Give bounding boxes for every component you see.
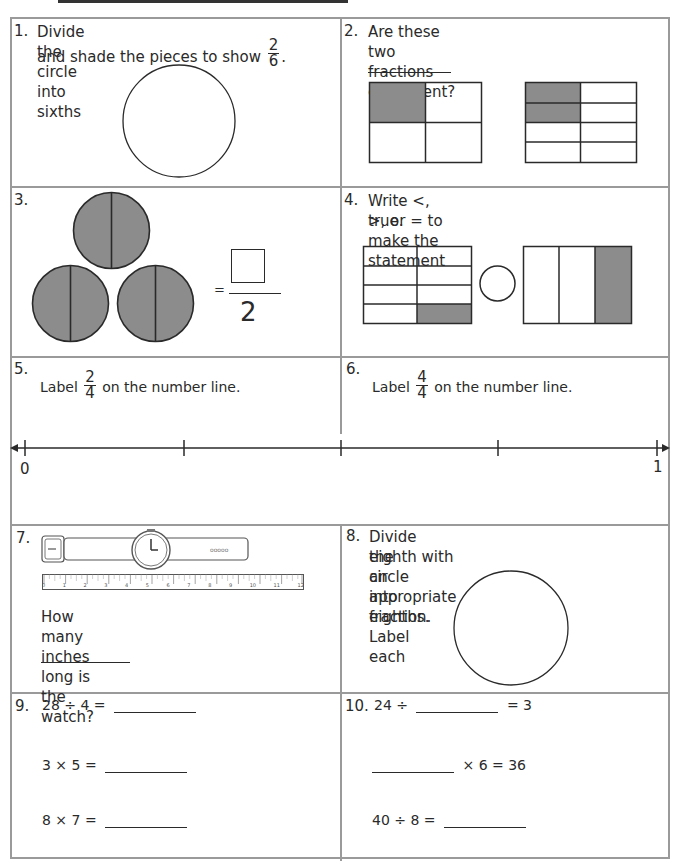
answer-blank[interactable] <box>41 662 130 663</box>
fraction-model-two-by-two <box>369 82 482 164</box>
shaded-circle-halves-top <box>72 191 152 271</box>
label-word: Label <box>372 379 410 395</box>
numerator-answer-box[interactable] <box>231 249 265 283</box>
question-5-text: Label 2 4 on the number line. <box>40 372 240 403</box>
denominator: 6 <box>269 54 279 69</box>
ruler-label: 4 <box>125 582 128 590</box>
question-8-line-2: eighth with an appropriate fraction. <box>369 547 456 627</box>
fraction-two-fourths: 2 4 <box>84 370 96 401</box>
ruler-label: 2 <box>84 582 87 590</box>
circle-to-divide-eighths[interactable] <box>453 571 571 687</box>
ruler-label: 8 <box>208 582 211 590</box>
fraction-four-fourths: 4 4 <box>416 370 428 401</box>
question-number: 5. <box>14 360 28 378</box>
top-edge-bar <box>58 0 348 3</box>
problem-text: 28 ÷ 4 = <box>42 697 106 713</box>
ruler-label: 7 <box>187 582 190 590</box>
question-number: 10. <box>345 697 369 715</box>
answer-blank[interactable] <box>444 813 526 828</box>
label-word: Label <box>40 379 78 395</box>
fraction-model-thirds <box>523 246 633 325</box>
problem-row: 8 × 7 = <box>42 812 187 828</box>
question-number: 6. <box>346 360 360 378</box>
circle-to-divide-sixths[interactable] <box>122 64 238 180</box>
problem-text: × 6 = 36 <box>462 757 526 773</box>
equals-sign: = <box>214 282 225 297</box>
question-number: 7. <box>16 529 30 547</box>
denominator: 4 <box>417 386 427 401</box>
number-line[interactable] <box>10 438 670 458</box>
fraction-model-four-by-two <box>525 82 638 164</box>
denominator: 4 <box>85 386 95 401</box>
right-arrow-icon <box>662 444 670 452</box>
problem-text: 3 × 5 = <box>42 757 97 773</box>
ruler-label: 10 <box>250 582 256 590</box>
number-line-end-label: 1 <box>653 458 663 476</box>
problem-text: = 3 <box>507 697 532 713</box>
fraction-bar <box>229 293 281 294</box>
problem-row: 40 ÷ 8 = <box>372 812 526 828</box>
question-number: 3. <box>14 191 28 209</box>
problem-text: 24 ÷ <box>374 697 408 713</box>
ruler-label: 0 <box>42 582 45 590</box>
shaded-circle-halves-right <box>116 264 196 344</box>
problem-row: 24 ÷ = 3 <box>374 697 532 713</box>
ruler-label: 6 <box>167 582 170 590</box>
question-number: 8. <box>346 527 360 545</box>
answer-blank[interactable] <box>372 758 454 773</box>
question-number: 1. <box>14 22 28 40</box>
col-divider-top <box>340 19 342 356</box>
period: . <box>281 48 286 66</box>
ruler-label: 11 <box>274 582 280 590</box>
answer-blank[interactable] <box>416 698 498 713</box>
question-4-line-2: true. <box>368 211 404 231</box>
shaded-circle-halves-left <box>31 264 111 344</box>
number-line-start-label: 0 <box>20 460 30 478</box>
ruler-label: 3 <box>104 582 107 590</box>
comparison-answer-circle[interactable] <box>479 265 517 303</box>
fraction-model-eighths <box>363 246 473 325</box>
problem-text: 40 ÷ 8 = <box>372 812 436 828</box>
ruler-label: 9 <box>229 582 232 590</box>
instruction: on the number line. <box>102 379 240 395</box>
ruler-labels: 0 1 2 3 4 5 6 7 8 9 10 11 12 <box>42 582 304 590</box>
problem-row: 3 × 5 = <box>42 757 187 773</box>
left-arrow-icon <box>10 444 18 452</box>
question-number: 2. <box>344 22 358 40</box>
denominator: 2 <box>240 297 257 327</box>
svg-text:ooooo: ooooo <box>210 546 229 553</box>
instruction: on the number line. <box>434 379 572 395</box>
answer-blank[interactable] <box>114 698 196 713</box>
question-number: 9. <box>15 697 29 715</box>
ruler-label: 12 <box>298 582 304 590</box>
ruler-label: 5 <box>146 582 149 590</box>
answer-blank[interactable] <box>105 813 187 828</box>
question-6-text: Label 4 4 on the number line. <box>372 372 572 403</box>
col-divider-bottom <box>340 524 342 861</box>
problem-row: × 6 = 36 <box>372 757 526 773</box>
ruler-label: 1 <box>63 582 66 590</box>
col-divider-numberline <box>340 356 342 434</box>
answer-blank[interactable] <box>105 758 187 773</box>
problem-row: 28 ÷ 4 = <box>42 697 196 713</box>
fraction-two-sixths: 2 6 <box>268 38 280 69</box>
answer-blank[interactable] <box>368 72 451 73</box>
problem-text: 8 × 7 = <box>42 812 97 828</box>
watch-illustration: ooooo <box>40 530 250 575</box>
question-number: 4. <box>344 191 358 209</box>
